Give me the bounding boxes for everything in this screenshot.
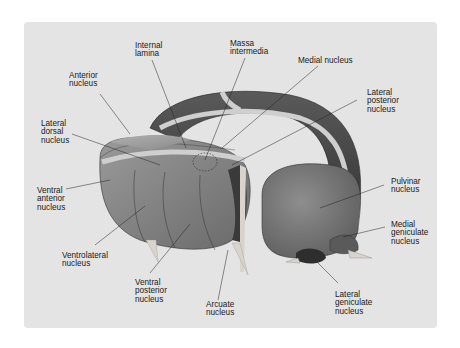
front-lobe xyxy=(100,135,250,275)
label-massa-intermedia: Massa intermedia xyxy=(230,40,268,57)
label-medial-nucleus: Medial nucleus xyxy=(298,57,353,65)
label-arcuate-nucleus: Arcuate nucleus xyxy=(206,301,234,318)
label-pulvinar-nucleus: Pulvinar nucleus xyxy=(391,178,421,195)
pulvinar xyxy=(262,164,372,264)
label-ventral-anterior-nucleus: Ventral anterior nucleus xyxy=(37,187,65,212)
label-lateral-geniculate-nucleus: Lateral geniculate nucleus xyxy=(335,291,372,316)
label-lateral-dorsal-nucleus: Lateral dorsal nucleus xyxy=(41,120,69,145)
medial-geniculate-shape xyxy=(330,235,358,254)
label-internal-lamina: Internal lamina xyxy=(135,42,162,59)
label-anterior-nucleus: Anterior nucleus xyxy=(69,72,98,89)
label-medial-geniculate-nucleus: Medial geniculate nucleus xyxy=(391,221,428,246)
label-ventral-posterior-nucleus: Ventral posterior nucleus xyxy=(135,279,167,304)
label-ventrolateral-nucleus: Ventrolateral nucleus xyxy=(62,252,108,269)
label-lateral-posterior-nucleus: Lateral posterior nucleus xyxy=(367,89,399,114)
